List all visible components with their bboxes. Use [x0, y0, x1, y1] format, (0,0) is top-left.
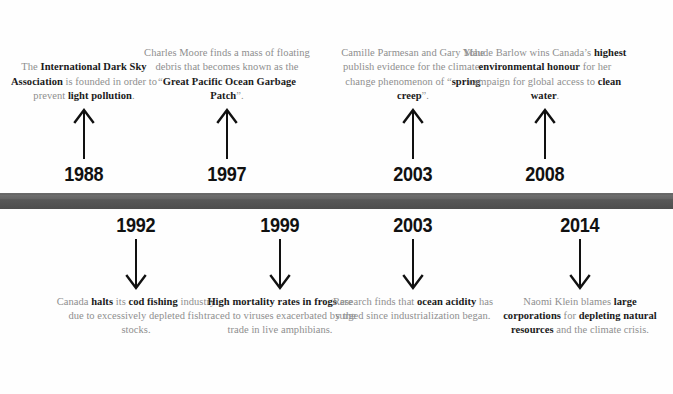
arrow-down-icon: [569, 239, 591, 291]
timeline-event-above[interactable]: Charles Moore finds a mass of floating d…: [142, 12, 312, 184]
timeline-year-label: 1988: [64, 163, 103, 184]
timeline-event-description: Research finds that ocean acidity has su…: [328, 295, 498, 323]
timeline-year-label: 1999: [260, 214, 299, 235]
timeline-year-label: 2014: [560, 214, 599, 235]
timeline-event-below[interactable]: 2014Naomi Klein blames large corporation…: [495, 214, 665, 390]
arrow-down-icon: [402, 239, 424, 291]
arrow-up-icon: [216, 107, 238, 159]
timeline-infographic: The International Dark Sky Association i…: [0, 0, 673, 394]
timeline-event-below[interactable]: 2003Research finds that ocean acidity ha…: [328, 214, 498, 390]
timeline-event-description: Naomi Klein blames large corporations fo…: [495, 295, 665, 338]
timeline-year-label: 1997: [207, 163, 246, 184]
arrow-down-icon: [269, 239, 291, 291]
timeline-year-label: 2003: [393, 163, 432, 184]
timeline-year-label: 1992: [116, 214, 155, 235]
timeline-year-label: 2003: [393, 214, 432, 235]
arrow-up-icon: [73, 107, 95, 159]
timeline-event-description: Maude Barlow wins Canada’s highest envir…: [460, 46, 630, 103]
timeline-axis-bar: [0, 193, 673, 209]
arrow-down-icon: [125, 239, 147, 291]
arrow-up-icon: [402, 107, 424, 159]
timeline-event-above[interactable]: Maude Barlow wins Canada’s highest envir…: [460, 12, 630, 184]
timeline-year-label: 2008: [525, 163, 564, 184]
arrow-up-icon: [534, 107, 556, 159]
timeline-event-description: Charles Moore finds a mass of floating d…: [142, 46, 312, 103]
timeline-bar-highlight: [0, 195, 673, 199]
